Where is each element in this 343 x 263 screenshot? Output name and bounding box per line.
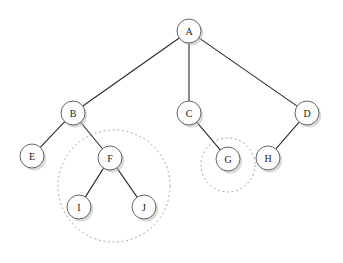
- tree-node-j[interactable]: J: [132, 195, 158, 221]
- tree-edge-c-g: [197, 122, 220, 150]
- node-circle[interactable]: [177, 101, 201, 125]
- node-circle[interactable]: [177, 19, 201, 43]
- tree-node-e[interactable]: E: [20, 144, 46, 170]
- tree-edge-b-f: [81, 122, 103, 148]
- tree-edge-a-b: [83, 38, 179, 106]
- tree-diagram: ABCDEFGHIJ: [0, 0, 343, 263]
- node-circle[interactable]: [216, 147, 240, 171]
- group-highlight-layer: [58, 130, 255, 242]
- tree-node-a[interactable]: A: [177, 19, 203, 45]
- tree-diagram-canvas: ABCDEFGHIJ: [0, 0, 343, 263]
- node-circle[interactable]: [20, 144, 44, 168]
- tree-edge-d-h: [276, 122, 299, 149]
- node-layer: ABCDEFGHIJ: [20, 19, 321, 221]
- tree-edge-f-i: [85, 168, 103, 197]
- tree-node-b[interactable]: B: [61, 101, 87, 127]
- node-circle[interactable]: [295, 101, 319, 125]
- tree-node-d[interactable]: D: [295, 101, 321, 127]
- tree-node-g[interactable]: G: [216, 147, 242, 173]
- tree-node-f[interactable]: F: [98, 146, 124, 172]
- node-circle[interactable]: [61, 101, 85, 125]
- node-circle[interactable]: [132, 195, 156, 219]
- tree-node-h[interactable]: H: [256, 146, 282, 172]
- node-circle[interactable]: [256, 146, 280, 170]
- tree-edge-f-j: [117, 168, 137, 197]
- node-circle[interactable]: [67, 195, 91, 219]
- tree-edge-b-e: [40, 122, 64, 148]
- node-circle[interactable]: [98, 146, 122, 170]
- tree-node-c[interactable]: C: [177, 101, 203, 127]
- tree-node-i[interactable]: I: [67, 195, 93, 221]
- tree-edge-a-d: [199, 38, 297, 106]
